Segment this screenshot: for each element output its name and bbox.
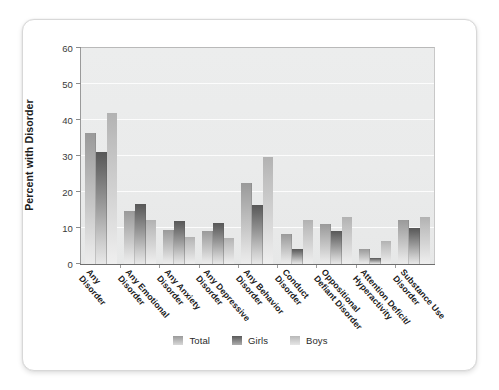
bar-group <box>356 48 395 264</box>
legend-item[interactable]: Boys <box>290 335 328 346</box>
bar <box>185 237 195 264</box>
chart-legend: TotalGirlsBoys <box>23 335 478 346</box>
bar <box>409 228 420 264</box>
bar <box>146 220 156 264</box>
bar <box>202 231 213 264</box>
bar <box>370 258 381 264</box>
y-axis-tick <box>76 263 81 264</box>
bar <box>420 217 430 264</box>
bar <box>241 183 252 264</box>
bar-group <box>199 48 238 264</box>
legend-label: Total <box>189 335 210 346</box>
y-axis-tick-label: 40 <box>62 115 73 126</box>
bar <box>281 234 292 264</box>
bar <box>213 223 224 264</box>
bar-group <box>81 48 120 264</box>
bar <box>252 205 263 264</box>
bar <box>398 220 409 264</box>
bar <box>381 241 391 264</box>
legend-swatch-icon <box>173 336 183 345</box>
bar <box>320 224 331 264</box>
bar-group <box>277 48 316 264</box>
bar-group <box>120 48 159 264</box>
legend-label: Boys <box>306 335 328 346</box>
bar-group <box>395 48 434 264</box>
bar <box>85 133 96 264</box>
bar <box>174 221 185 264</box>
chart-figure: Percent with Disorder 0102030405060 AnyD… <box>23 20 478 372</box>
y-axis-tick-label: 20 <box>62 187 73 198</box>
plot-area: 0102030405060 <box>80 47 435 264</box>
chart-card: Percent with Disorder 0102030405060 AnyD… <box>22 19 477 371</box>
bar <box>263 157 273 264</box>
bar <box>96 152 107 264</box>
bar-group <box>238 48 277 264</box>
legend-swatch-icon <box>290 336 300 345</box>
y-axis-tick-label: 10 <box>62 223 73 234</box>
y-axis-title: Percent with Disorder <box>23 99 35 211</box>
bar-group <box>159 48 198 264</box>
bar <box>303 220 313 264</box>
legend-item[interactable]: Total <box>173 335 210 346</box>
bar <box>124 211 135 264</box>
bar <box>107 113 117 264</box>
y-axis-tick-label: 60 <box>62 43 73 54</box>
legend-item[interactable]: Girls <box>232 335 268 346</box>
bar <box>292 249 303 264</box>
bar <box>331 231 342 264</box>
bar <box>359 249 370 264</box>
y-axis-tick-label: 30 <box>62 151 73 162</box>
legend-swatch-icon <box>232 336 242 345</box>
y-axis-tick-label: 50 <box>62 79 73 90</box>
bar-group <box>316 48 355 264</box>
bar <box>135 204 146 264</box>
bar <box>224 238 234 264</box>
x-axis-label: AnyDisorder <box>76 267 115 308</box>
y-axis-tick-label: 0 <box>68 259 73 270</box>
bar <box>163 230 174 264</box>
legend-label: Girls <box>248 335 268 346</box>
bar <box>342 217 352 264</box>
